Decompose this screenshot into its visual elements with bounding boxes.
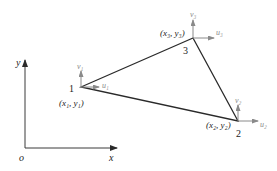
node-3-u-label: u₃	[216, 28, 223, 37]
node-2-id: 2	[236, 128, 241, 139]
y-axis-label: y	[15, 57, 21, 68]
node-2-v-label: v₂	[235, 96, 242, 105]
node-3-v-label: v₃	[190, 10, 197, 19]
node-2-coord: (x₂, y₂)	[206, 120, 231, 130]
coordinate-axes: o x y	[15, 57, 117, 163]
node-1-coord: (x₁, y₁)	[59, 98, 84, 108]
node-2-u-label: u₂	[260, 120, 267, 129]
node-1-id: 1	[69, 83, 74, 94]
diagram-svg: o x y v₁ u₁ 1 (x₁, y₁) v₃ u₃ 3 (x₃, y₃) …	[0, 0, 277, 171]
origin-label: o	[19, 152, 24, 163]
node-3: v₃ u₃ 3 (x₃, y₃)	[160, 10, 223, 56]
node-1-u-label: u₁	[102, 81, 109, 90]
triangle-element	[81, 38, 238, 121]
node-3-id: 3	[183, 45, 188, 56]
node-3-coord: (x₃, y₃)	[160, 28, 185, 38]
node-1-v-label: v₁	[77, 62, 84, 71]
x-axis-label: x	[108, 152, 114, 163]
diagram-canvas: o x y v₁ u₁ 1 (x₁, y₁) v₃ u₃ 3 (x₃, y₃) …	[0, 0, 277, 171]
